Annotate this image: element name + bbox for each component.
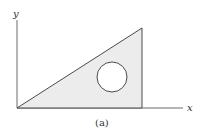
diagram-canvas: y x (a) — [0, 0, 203, 130]
figure-caption: (a) — [95, 117, 109, 128]
circular-hole — [97, 62, 127, 92]
x-axis-label: x — [187, 102, 193, 113]
y-axis-label: y — [12, 8, 19, 19]
